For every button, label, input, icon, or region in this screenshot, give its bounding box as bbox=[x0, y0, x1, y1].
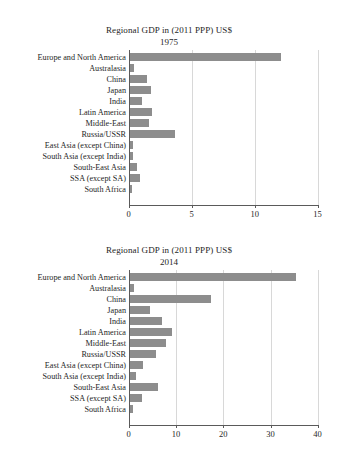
bar-australasia bbox=[130, 284, 135, 292]
bar-australasia bbox=[130, 64, 134, 72]
xtick-10 bbox=[176, 425, 177, 428]
bar-middle-east bbox=[130, 339, 167, 347]
chart-title-1975: Regional GDP in (2011 PPP) US$ bbox=[0, 24, 338, 36]
cat-label-australasia: Australasia bbox=[89, 64, 126, 73]
bar-china bbox=[130, 75, 148, 83]
cat-label-south-east-asia: South-East Asia bbox=[73, 383, 126, 392]
figure-two-bar-charts: Regional GDP in (2011 PPP) US$ 1975 Euro… bbox=[0, 0, 338, 452]
cat-label-latin-america: Latin America bbox=[79, 108, 126, 117]
bar-europe-north-america bbox=[130, 273, 296, 281]
xtick-label-10: 10 bbox=[172, 429, 181, 439]
xtick-30 bbox=[271, 425, 272, 428]
xtick-0 bbox=[129, 425, 130, 428]
bar-russia-ussr bbox=[130, 350, 157, 358]
cat-label-ssa-except-sa: SSA (except SA) bbox=[70, 394, 126, 403]
plot-area-1975: 0 5 10 15 bbox=[129, 50, 319, 205]
cat-label-russia-ussr: Russia/USSR bbox=[81, 350, 126, 359]
xtick-label-30: 30 bbox=[266, 429, 275, 439]
xtick-10 bbox=[255, 205, 256, 208]
bar-south-east-asia bbox=[130, 383, 159, 391]
bar-europe-north-america bbox=[130, 53, 282, 61]
cat-label-india: India bbox=[109, 97, 126, 106]
bar-india bbox=[130, 97, 143, 105]
cat-label-east-asia-except-china: East Asia (except China) bbox=[45, 141, 126, 150]
xtick-20 bbox=[223, 425, 224, 428]
bar-south-africa bbox=[130, 405, 133, 413]
gridline-20 bbox=[223, 270, 224, 425]
x-axis-1975 bbox=[129, 205, 319, 206]
bar-east-asia-except-china bbox=[130, 141, 134, 149]
cat-label-east-asia-except-china: East Asia (except China) bbox=[45, 361, 126, 370]
bar-ssa-except-sa bbox=[130, 174, 140, 182]
bar-east-asia-except-china bbox=[130, 361, 144, 369]
cat-label-china: China bbox=[106, 75, 126, 84]
xtick-label-0: 0 bbox=[126, 209, 130, 219]
cat-label-latin-america: Latin America bbox=[79, 328, 126, 337]
xtick-label-40: 40 bbox=[313, 429, 322, 439]
xtick-label-5: 5 bbox=[190, 209, 194, 219]
xtick-0 bbox=[129, 205, 130, 208]
cat-label-middle-east: Middle-East bbox=[86, 119, 126, 128]
bar-south-asia-except-india bbox=[130, 152, 134, 160]
chart-title-2014: Regional GDP in (2011 PPP) US$ bbox=[0, 244, 338, 256]
xtick-5 bbox=[192, 205, 193, 208]
cat-label-japan: Japan bbox=[107, 306, 126, 315]
chart-2014: Regional GDP in (2011 PPP) US$ 2014 Euro… bbox=[0, 226, 338, 452]
gridline-10 bbox=[176, 270, 177, 425]
xtick-label-15: 15 bbox=[313, 209, 322, 219]
bar-latin-america bbox=[130, 108, 153, 116]
cat-label-ssa-except-sa: SSA (except SA) bbox=[70, 174, 126, 183]
xtick-label-20: 20 bbox=[219, 429, 228, 439]
cat-label-europe-north-america: Europe and North America bbox=[38, 53, 126, 62]
bar-south-asia-except-india bbox=[130, 372, 136, 380]
cat-label-south-africa: South Africa bbox=[84, 185, 126, 194]
bar-china bbox=[130, 295, 211, 303]
cat-label-south-africa: South Africa bbox=[84, 405, 126, 414]
gridline-15 bbox=[318, 50, 319, 205]
plot-area-2014: 0 10 20 30 40 bbox=[129, 270, 319, 425]
chart-subtitle-2014: 2014 bbox=[0, 256, 338, 268]
chart-subtitle-1975: 1975 bbox=[0, 36, 338, 48]
gridline-10 bbox=[255, 50, 256, 205]
cat-label-russia-ussr: Russia/USSR bbox=[81, 130, 126, 139]
cat-label-south-asia-except-india: South Asia (except India) bbox=[43, 152, 126, 161]
bar-india bbox=[130, 317, 162, 325]
cat-label-europe-north-america: Europe and North America bbox=[38, 273, 126, 282]
cat-label-china: China bbox=[106, 295, 126, 304]
bar-south-africa bbox=[130, 185, 133, 193]
bar-south-east-asia bbox=[130, 163, 138, 171]
bar-japan bbox=[130, 306, 151, 314]
gridline-40 bbox=[318, 270, 319, 425]
bar-latin-america bbox=[130, 328, 172, 336]
xtick-label-10: 10 bbox=[251, 209, 260, 219]
cat-label-middle-east: Middle-East bbox=[86, 339, 126, 348]
xtick-15 bbox=[318, 205, 319, 208]
gridline-30 bbox=[271, 270, 272, 425]
cat-label-india: India bbox=[109, 317, 126, 326]
chart-1975: Regional GDP in (2011 PPP) US$ 1975 Euro… bbox=[0, 0, 338, 226]
bar-japan bbox=[130, 86, 152, 94]
cat-label-japan: Japan bbox=[107, 86, 126, 95]
cat-label-south-asia-except-india: South Asia (except India) bbox=[43, 372, 126, 381]
cat-label-south-east-asia: South-East Asia bbox=[73, 163, 126, 172]
xtick-40 bbox=[318, 425, 319, 428]
bar-ssa-except-sa bbox=[130, 394, 142, 402]
cat-label-australasia: Australasia bbox=[89, 284, 126, 293]
bar-russia-ussr bbox=[130, 130, 176, 138]
bar-middle-east bbox=[130, 119, 149, 127]
gridline-5 bbox=[192, 50, 193, 205]
xtick-label-0: 0 bbox=[126, 429, 130, 439]
